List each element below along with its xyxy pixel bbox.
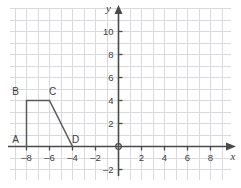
vertex-label-d: D — [72, 134, 79, 145]
svg-text:–4: –4 — [67, 152, 78, 163]
svg-text:10: 10 — [103, 26, 114, 37]
svg-text:8: 8 — [208, 152, 213, 163]
axes — [8, 5, 236, 176]
graph-canvas: –8–6–4–22468–2246810 yx ABCD — [0, 0, 241, 188]
svg-text:4: 4 — [162, 152, 167, 163]
svg-text:–2: –2 — [90, 152, 101, 163]
svg-text:–6: –6 — [44, 152, 55, 163]
svg-text:–8: –8 — [21, 152, 32, 163]
grid-lines — [10, 8, 231, 180]
svg-text:x: x — [230, 150, 236, 162]
vertex-label-b: B — [12, 86, 19, 97]
axis-name-labels: yx — [105, 2, 236, 162]
svg-text:8: 8 — [108, 49, 113, 60]
svg-text:4: 4 — [108, 95, 113, 106]
svg-text:y: y — [105, 2, 111, 14]
svg-text:2: 2 — [139, 152, 144, 163]
vertex-label-a: A — [12, 134, 19, 145]
coordinate-plane-figure: –8–6–4–22468–2246810 yx ABCD x y O — [0, 0, 241, 188]
svg-text:6: 6 — [108, 72, 113, 83]
svg-text:–2: –2 — [103, 164, 114, 175]
vertex-label-c: C — [49, 86, 56, 97]
svg-text:6: 6 — [185, 152, 190, 163]
vertex-labels: ABCD — [12, 86, 79, 145]
svg-text:2: 2 — [108, 118, 113, 129]
